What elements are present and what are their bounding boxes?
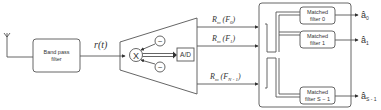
svg-text:~: ~ [158, 37, 163, 46]
svg-text:Matched: Matched [307, 89, 328, 95]
mixer-symbol: X [133, 51, 139, 61]
mixer: X [130, 49, 143, 62]
svg-text:Rm (FN - 1): Rm (FN - 1) [209, 72, 241, 82]
mixer-adc-line [143, 54, 176, 57]
routing-network [265, 12, 300, 97]
matched-filter-0: Matched filter 0 [300, 7, 335, 24]
channel-label-0: Rm (F0) [211, 15, 236, 25]
channel-label-n-1: Rm (FN - 1) [209, 72, 241, 82]
antenna-icon [4, 33, 33, 57]
signal-label: r(t) [94, 39, 108, 51]
svg-text:Rm (F1): Rm (F1) [211, 34, 236, 44]
svg-text:filter 0: filter 0 [310, 16, 325, 22]
channel-label-1: Rm (F1) [211, 34, 236, 44]
matched-filter-1: Matched filter 1 [300, 31, 335, 48]
svg-text:Rm (F0): Rm (F0) [211, 15, 236, 25]
bandpass-filter-block: Band pass filter [33, 39, 80, 72]
receiver-block-diagram: Band pass filter r(t) X ~ ~ A/D Rm (F0) … [0, 0, 381, 110]
svg-text:filter S − 1: filter S − 1 [305, 96, 330, 102]
oscillator-icon: ~ [141, 36, 165, 50]
svg-text:filter 1: filter 1 [310, 40, 325, 46]
output-label-0: â0 [361, 10, 369, 21]
output-label-1: â1 [361, 35, 369, 46]
matched-filter-s-1: Matched filter S − 1 [300, 87, 335, 104]
svg-text:Matched: Matched [307, 9, 328, 15]
bandpass-filter-label-1: Band pass [44, 49, 70, 55]
adc-label: A/D [180, 51, 191, 58]
svg-text:~: ~ [158, 63, 163, 72]
svg-text:Matched: Matched [307, 33, 328, 39]
oscillator-icon: ~ [141, 60, 165, 72]
adc-block: A/D [177, 48, 194, 61]
output-label-s-1: âS - 1 [361, 91, 377, 102]
bandpass-filter-label-2: filter [51, 56, 62, 62]
